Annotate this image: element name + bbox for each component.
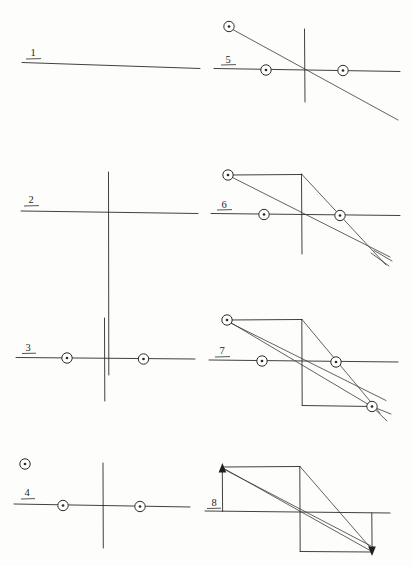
horizontal-axis [205, 511, 390, 513]
panel-2-label: 2 [28, 194, 33, 205]
drawing-sheet: 1 2 3 [0, 0, 412, 566]
vertical-axis [305, 29, 306, 102]
panel-5-label: 5 [225, 54, 230, 65]
oblique-line-b [302, 175, 386, 266]
arrow-up-icon [219, 463, 227, 473]
marker-upper-left [224, 21, 234, 31]
construction-figure: 1 2 3 [0, 0, 412, 566]
marker-left [62, 353, 72, 363]
panel-5: 5 [214, 21, 400, 120]
panel-3-label: 3 [25, 342, 30, 353]
horizontal-axis [21, 211, 198, 214]
marker-upper-left [222, 315, 232, 325]
marker-right [138, 354, 148, 364]
oblique-tail-a [374, 251, 392, 262]
vertical-axis [302, 174, 303, 254]
horizontal-axis [14, 504, 190, 507]
diagonal-c [300, 467, 372, 550]
bottom-edge [300, 552, 372, 553]
top-edge [222, 467, 300, 468]
oblique-line-a [230, 176, 391, 257]
marker-left [58, 500, 68, 510]
bottom-edge [302, 406, 372, 407]
panel-4-label: 4 [24, 487, 30, 498]
diagonal-c [302, 320, 380, 414]
marker-lower-right [367, 401, 377, 411]
panel-6: 6 [211, 170, 400, 266]
panel-8-label: 8 [211, 497, 216, 508]
horizontal-axis [16, 358, 195, 360]
horizontal-axis [209, 360, 398, 362]
marker-left [257, 356, 267, 366]
marker-right [135, 501, 145, 511]
marker-right [338, 65, 348, 75]
marker-left [259, 209, 269, 219]
oblique-line [229, 28, 398, 121]
panel-4: 4 [14, 459, 190, 548]
marker-right [335, 210, 345, 220]
marker-right [331, 357, 341, 367]
panel-8: 8 [205, 463, 390, 556]
marker-upper-left [223, 170, 233, 180]
panel-1: 1 [22, 47, 200, 69]
horizontal-axis [22, 63, 200, 69]
top-edge [229, 175, 302, 176]
top-edge [227, 320, 302, 321]
marker-left [261, 65, 271, 75]
panel-7-label: 7 [219, 345, 224, 356]
marker-floating [20, 459, 30, 469]
panel-3: 3 [16, 318, 195, 401]
arrow-down-icon [368, 547, 376, 557]
diagonal-b [224, 469, 372, 546]
panel-2: 2 [21, 172, 198, 375]
panel-6-label: 6 [221, 199, 226, 210]
panel-1-label: 1 [30, 47, 35, 58]
diagonal-a [228, 321, 371, 406]
panel-7: 7 [209, 315, 398, 421]
